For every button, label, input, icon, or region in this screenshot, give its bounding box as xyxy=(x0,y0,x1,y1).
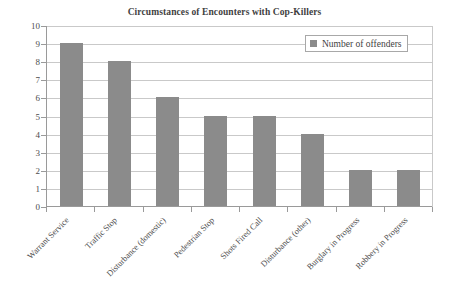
x-axis-tick-label: Pedestrian Stop xyxy=(171,215,216,260)
x-axis-tick-mark xyxy=(239,207,240,212)
y-axis-tick-mark xyxy=(41,62,46,63)
y-axis-tick-label: 2 xyxy=(6,167,40,176)
y-axis-tick-mark xyxy=(41,117,46,118)
bar[interactable] xyxy=(108,61,131,206)
y-axis-tick-label: 5 xyxy=(6,113,40,122)
gridline xyxy=(47,80,433,81)
x-axis-tick-label: Disturbance (other) xyxy=(259,215,313,269)
y-axis-tick-label: 7 xyxy=(6,76,40,85)
bar[interactable] xyxy=(253,116,276,207)
gridline xyxy=(47,117,433,118)
x-axis-tick-mark xyxy=(384,207,385,212)
gridline xyxy=(47,98,433,99)
x-axis-tick-mark xyxy=(336,207,337,212)
bar[interactable] xyxy=(349,170,372,206)
y-axis-tick-label: 0 xyxy=(6,203,40,212)
y-axis-tick-label: 6 xyxy=(6,94,40,103)
y-axis-tick-label: 3 xyxy=(6,149,40,158)
x-axis-tick-label: Warrant Service xyxy=(25,215,71,261)
bar[interactable] xyxy=(301,134,324,206)
gridline xyxy=(47,189,433,190)
y-axis-tick-label: 9 xyxy=(6,40,40,49)
x-axis-tick-label: Robbery in Progress xyxy=(353,215,409,271)
y-axis-tick-mark xyxy=(41,80,46,81)
legend-swatch-icon xyxy=(310,40,317,47)
y-axis-tick-mark xyxy=(41,171,46,172)
x-axis-tick-mark xyxy=(143,207,144,212)
gridline xyxy=(47,171,433,172)
y-axis-tick-label: 10 xyxy=(6,22,40,31)
y-axis-tick-label: 8 xyxy=(6,58,40,67)
x-axis-tick-mark xyxy=(46,207,47,212)
y-axis-tick-mark xyxy=(41,135,46,136)
y-axis-tick-mark xyxy=(41,44,46,45)
bar[interactable] xyxy=(397,170,420,206)
chart-legend: Number of offenders xyxy=(305,35,408,52)
gridline xyxy=(47,62,433,63)
x-axis-tick-label: Traffic Stop xyxy=(83,215,119,251)
gridline xyxy=(47,26,433,27)
gridline xyxy=(47,135,433,136)
y-axis-tick-label: 4 xyxy=(6,131,40,140)
x-axis-tick-label: Shots Fired Call xyxy=(218,215,264,261)
bar[interactable] xyxy=(156,97,179,206)
x-axis-tick-mark xyxy=(94,207,95,212)
legend-label: Number of offenders xyxy=(322,39,402,49)
bar[interactable] xyxy=(204,116,227,207)
x-axis-tick-mark xyxy=(287,207,288,212)
bar[interactable] xyxy=(60,43,83,206)
x-axis-tick-mark xyxy=(191,207,192,212)
plot-right-border xyxy=(432,26,433,207)
y-axis-tick-mark xyxy=(41,153,46,154)
plot-area xyxy=(46,26,432,207)
y-axis-tick-mark xyxy=(41,189,46,190)
y-axis-tick-label: 1 xyxy=(6,185,40,194)
y-axis-tick-mark xyxy=(41,26,46,27)
x-axis-tick-mark xyxy=(432,207,433,212)
gridline xyxy=(47,153,433,154)
chart-title: Circumstances of Encounters with Cop-Kil… xyxy=(0,7,449,17)
y-axis-tick-mark xyxy=(41,98,46,99)
